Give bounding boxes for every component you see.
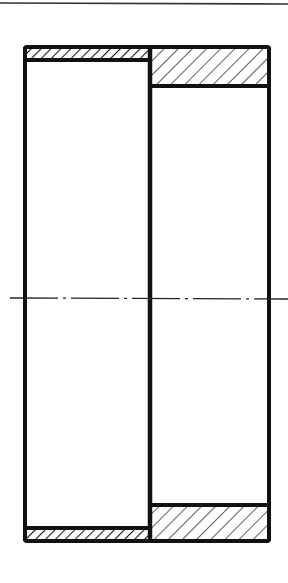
- bottom-thick-wall-hatch: [150, 506, 267, 539]
- top-thin-wall-hatch: [27, 49, 150, 59]
- top-thick-wall-hatch: [150, 49, 267, 85]
- right-bore-outline: [150, 86, 269, 505]
- bottom-thin-wall-hatch: [27, 529, 150, 539]
- left-bore-outline: [25, 60, 150, 528]
- section-drawing: [0, 0, 288, 583]
- top-rule-line: [0, 3, 288, 4]
